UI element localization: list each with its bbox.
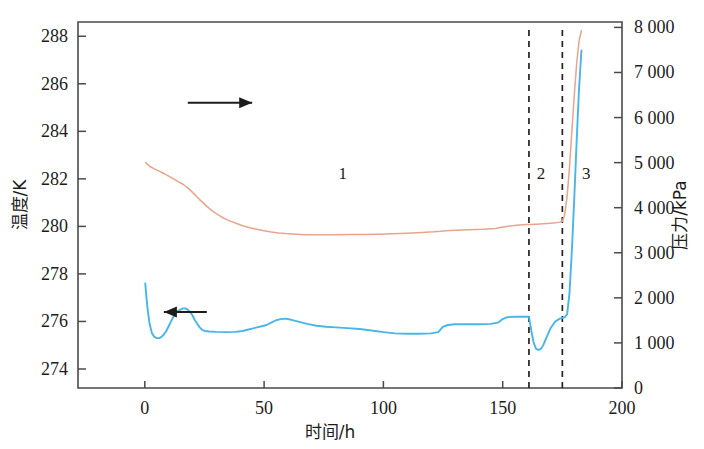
x-tick-label: 100 (370, 398, 397, 418)
x-tick-label: 150 (489, 398, 516, 418)
y-right-tick-label: 0 (634, 378, 643, 398)
y-right-tick-label: 5 000 (634, 153, 675, 173)
region-label-1: 1 (339, 164, 348, 183)
y-right-tick-label: 7 000 (634, 62, 675, 82)
y-right-tick-label: 2 000 (634, 288, 675, 308)
y-right-tick-label: 4 000 (634, 198, 675, 218)
y-left-tick-label: 276 (41, 311, 68, 331)
x-tick-label: 0 (140, 398, 149, 418)
y-right-tick-label: 8 000 (634, 17, 675, 37)
y-right-tick-label: 1 000 (634, 333, 675, 353)
y-right-tick-label: 3 000 (634, 243, 675, 263)
temperature-curve (145, 51, 581, 350)
chart-figure: 05010015020027427627828028228428628801 0… (0, 0, 704, 449)
y-left-tick-label: 274 (41, 359, 68, 379)
region-label-3: 3 (582, 164, 591, 183)
y-left-tick-label: 280 (41, 216, 68, 236)
arrow-head-icon (164, 306, 177, 317)
y-left-tick-label: 282 (41, 169, 68, 189)
region-label-2: 2 (537, 164, 546, 183)
y-right-axis-title: 压力/kPa (670, 180, 690, 249)
y-left-tick-label: 278 (41, 264, 68, 284)
x-tick-label: 50 (255, 398, 273, 418)
arrow-head-icon (239, 97, 252, 108)
pressure-curve (146, 31, 582, 235)
plot-frame (78, 22, 622, 388)
x-tick-label: 200 (609, 398, 636, 418)
chart-canvas: 05010015020027427627828028228428628801 0… (0, 0, 704, 449)
y-left-tick-label: 286 (41, 74, 68, 94)
y-left-axis-title: 温度/K (10, 179, 30, 231)
y-left-tick-label: 284 (41, 121, 68, 141)
y-right-tick-label: 6 000 (634, 108, 675, 128)
y-left-tick-label: 288 (41, 26, 68, 46)
x-axis-title: 时间/h (305, 422, 356, 442)
pressure-to-right-axis-arrow (188, 97, 252, 108)
